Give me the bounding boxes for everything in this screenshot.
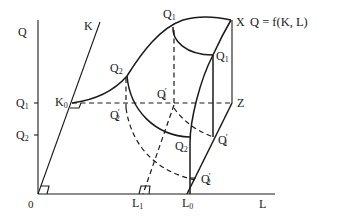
l1-tick-label: L1: [132, 196, 143, 211]
q1p-right-label: Q′1: [218, 132, 228, 148]
l0-tick-label: L0: [182, 196, 193, 211]
l-axis-label: L: [259, 197, 266, 211]
q2p-bottom-label: Q′2: [201, 171, 211, 187]
production-surface-diagram: Q = f(K, L) Q L K 0 Q1 Q2 L1 L0 K0 X Z Q…: [0, 0, 337, 219]
k-ray: [38, 22, 100, 194]
origin-label: 0: [28, 198, 34, 210]
x-label: X: [236, 15, 245, 29]
q1p-l1-dashed-line: [143, 105, 174, 194]
q2-top-label: Q2: [110, 61, 123, 76]
q1-tick-label: Q1: [16, 96, 29, 111]
q1p-center-label: Q′1: [157, 86, 167, 102]
z-label: Z: [237, 96, 244, 110]
q-axis-label: Q: [18, 25, 27, 39]
top-output-curve: [72, 17, 231, 103]
equation-label: Q = f(K, L): [250, 15, 308, 29]
q2p-left-label: Q′2: [110, 107, 120, 123]
q1-right-label: Q1: [216, 49, 229, 64]
k0-right-angle: [70, 103, 81, 108]
q1-isoquant-curve: [173, 27, 213, 55]
q1-top-label: Q1: [163, 7, 176, 22]
k0-label: K0: [55, 95, 68, 110]
q2-tick-label: Q2: [16, 128, 29, 143]
q2-isoquant-curve: [127, 76, 190, 137]
k-ray-label: K: [84, 19, 93, 33]
origin-right-angle: [41, 186, 49, 194]
q2-lower-label: Q2: [175, 139, 188, 154]
q2p-projected-curve: [126, 108, 195, 180]
